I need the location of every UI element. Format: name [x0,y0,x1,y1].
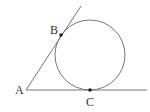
point-b [59,33,63,37]
tangent-circle-diagram: A B C [0,0,150,112]
label-b: B [50,23,58,37]
point-c [88,88,92,92]
tangent-circle [55,20,125,90]
label-c: C [86,95,94,109]
line-ab [26,6,81,90]
label-a: A [15,83,24,97]
